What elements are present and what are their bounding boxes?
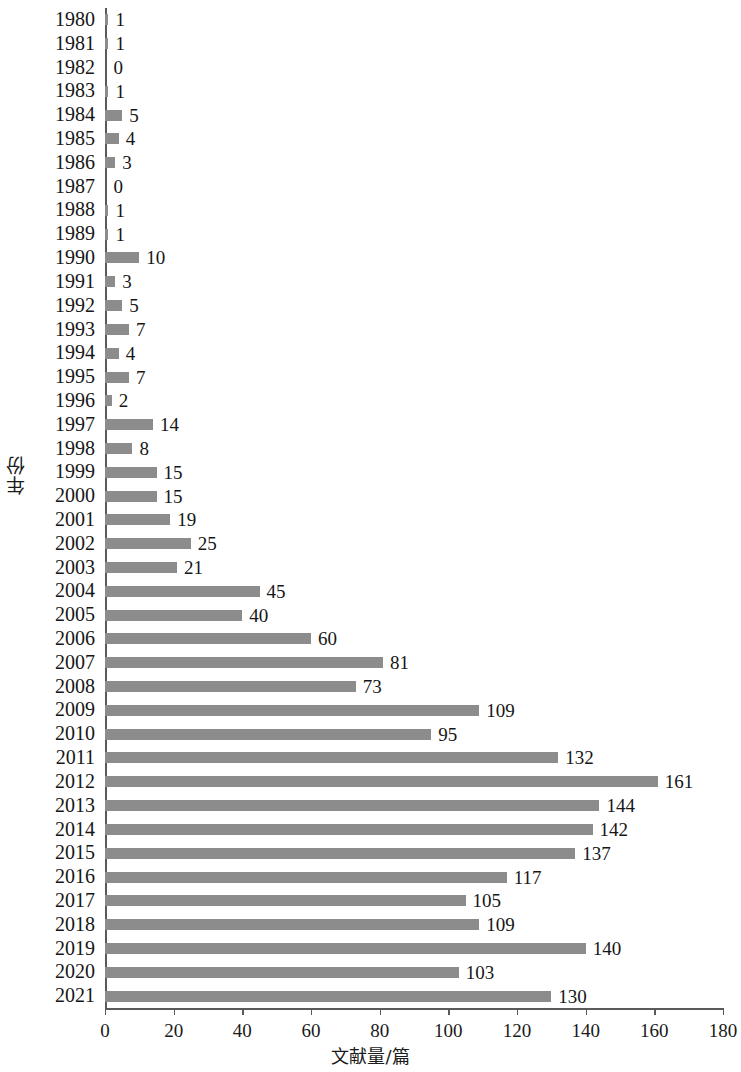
- bar-value-label: 14: [160, 414, 179, 435]
- y-tick-label: 2007: [0, 651, 95, 675]
- bar-row: 19854: [105, 127, 723, 151]
- y-tick-label: 1992: [0, 294, 95, 318]
- bar-row: 19881: [105, 198, 723, 222]
- bar-value-label: 73: [363, 676, 382, 697]
- bar: [105, 586, 260, 597]
- bar: [105, 300, 122, 311]
- bar-row: 19801: [105, 8, 723, 32]
- bar: [105, 348, 119, 359]
- y-tick-label: 2001: [0, 508, 95, 532]
- y-tick-label: 2016: [0, 865, 95, 889]
- bar-row: 200540: [105, 603, 723, 627]
- bar-value-label: 3: [122, 271, 132, 292]
- bar-value-label: 103: [466, 962, 495, 983]
- bar-row: 2013144: [105, 794, 723, 818]
- y-tick-label: 1997: [0, 413, 95, 437]
- bar: [105, 895, 466, 906]
- bar: [105, 943, 586, 954]
- y-tick-label: 1986: [0, 151, 95, 175]
- bar: [105, 729, 431, 740]
- y-tick-label: 1994: [0, 341, 95, 365]
- bar-row: 200119: [105, 508, 723, 532]
- bar-value-label: 10: [146, 247, 165, 268]
- bar-value-label: 142: [600, 819, 629, 840]
- bar-row: 19925: [105, 294, 723, 318]
- bar-value-label: 1: [115, 81, 125, 102]
- bar-value-label: 8: [139, 438, 149, 459]
- bar-value-label: 40: [249, 605, 268, 626]
- bar-value-label: 25: [198, 533, 217, 554]
- x-tick-label: 60: [281, 1020, 341, 1042]
- x-tick: [723, 1008, 724, 1015]
- y-tick-label: 2009: [0, 698, 95, 722]
- bar: [105, 443, 132, 454]
- bar-value-label: 15: [164, 462, 183, 483]
- y-tick-label: 2006: [0, 627, 95, 651]
- bar-row: 200225: [105, 532, 723, 556]
- bar-value-label: 0: [114, 176, 124, 197]
- bar-chart: 年份 020406080100120140160180 198011981119…: [0, 0, 741, 1072]
- bar-row: 19957: [105, 365, 723, 389]
- plot-area: 020406080100120140160180 198011981119820…: [105, 8, 723, 1008]
- y-tick-label: 2019: [0, 937, 95, 961]
- bar: [105, 491, 157, 502]
- bar-row: 2011132: [105, 746, 723, 770]
- x-tick-label: 100: [418, 1020, 478, 1042]
- y-tick-label: 1984: [0, 103, 95, 127]
- bar: [105, 562, 177, 573]
- bar-value-label: 0: [114, 57, 124, 78]
- bar-row: 199714: [105, 413, 723, 437]
- bar-value-label: 1: [115, 33, 125, 54]
- bar-row: 19962: [105, 389, 723, 413]
- x-axis-line: [105, 1008, 723, 1010]
- bar-value-label: 4: [126, 343, 136, 364]
- y-tick-label: 1983: [0, 79, 95, 103]
- x-tick-label: 160: [624, 1020, 684, 1042]
- bar-row: 200445: [105, 579, 723, 603]
- bar-row: 199010: [105, 246, 723, 270]
- y-tick-label: 1998: [0, 437, 95, 461]
- bar: [105, 610, 242, 621]
- bar: [105, 824, 593, 835]
- bar: [105, 681, 356, 692]
- bar-row: 2020103: [105, 960, 723, 984]
- bar-row: 2019140: [105, 937, 723, 961]
- y-tick-label: 1990: [0, 246, 95, 270]
- x-tick-label: 120: [487, 1020, 547, 1042]
- y-tick-label: 2010: [0, 722, 95, 746]
- bar-row: 19870: [105, 175, 723, 199]
- bar-row: 19811: [105, 32, 723, 56]
- bar: [105, 133, 119, 144]
- bar-row: 199915: [105, 460, 723, 484]
- y-tick-label: 2003: [0, 556, 95, 580]
- bar: [105, 776, 658, 787]
- bar: [105, 752, 558, 763]
- y-tick-label: 2005: [0, 603, 95, 627]
- bar-value-label: 1: [115, 9, 125, 30]
- bar-row: 19937: [105, 318, 723, 342]
- bar-value-label: 4: [126, 128, 136, 149]
- bar-row: 19944: [105, 341, 723, 365]
- bar: [105, 991, 551, 1002]
- x-tick: [586, 1008, 587, 1015]
- y-tick-label: 1985: [0, 127, 95, 151]
- bar-value-label: 161: [665, 771, 694, 792]
- bar-value-label: 2: [119, 390, 129, 411]
- bar: [105, 372, 129, 383]
- x-tick-label: 80: [350, 1020, 410, 1042]
- bar: [105, 252, 139, 263]
- bar: [105, 419, 153, 430]
- y-tick-label: 2017: [0, 889, 95, 913]
- bar-row: 2009109: [105, 698, 723, 722]
- bar: [105, 229, 108, 240]
- y-tick-label: 2021: [0, 984, 95, 1008]
- bar: [105, 110, 122, 121]
- bar-row: 2017105: [105, 889, 723, 913]
- x-tick-label: 20: [144, 1020, 204, 1042]
- bar: [105, 157, 115, 168]
- bar-value-label: 3: [122, 152, 132, 173]
- bar-value-label: 60: [318, 628, 337, 649]
- x-tick-label: 180: [693, 1020, 741, 1042]
- y-tick-label: 2015: [0, 841, 95, 865]
- bar-value-label: 15: [164, 486, 183, 507]
